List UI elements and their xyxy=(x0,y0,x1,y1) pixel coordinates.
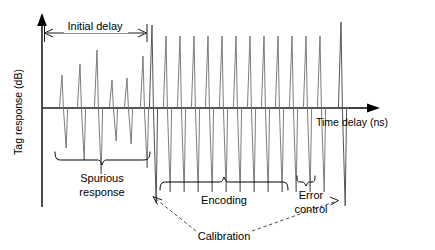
figure-container: Initial delay Tag response (dB) Time del… xyxy=(0,0,435,250)
initial-delay-label: Initial delay xyxy=(67,20,123,32)
pulse-calibration-1 xyxy=(338,22,346,206)
spurious-response-annotation: Spurious response xyxy=(55,152,150,198)
pulse-encoding-3 xyxy=(191,36,199,192)
pulse-encoding-4 xyxy=(205,36,213,192)
calibration-leader-right xyxy=(252,202,334,231)
pulse-encoding-10 xyxy=(289,36,297,192)
pulse-encoding-1 xyxy=(163,36,171,192)
pulse-encoding-6 xyxy=(233,36,241,192)
initial-delay-annotation: Initial delay xyxy=(45,19,148,42)
pulse-encoding-9 xyxy=(275,36,283,192)
pulse-initial-delay-3 xyxy=(94,50,102,174)
pulse-encoding-5 xyxy=(219,36,227,192)
calibration-label: Calibration xyxy=(198,230,251,242)
pulse-initial-delay-1 xyxy=(59,75,67,148)
x-axis-label: Time delay (ns) xyxy=(316,116,388,128)
signal-plot: Initial delay Tag response (dB) Time del… xyxy=(0,0,435,250)
error-control-label-line1: Error xyxy=(299,189,324,201)
error-control-annotation: Error control xyxy=(294,176,327,215)
pulse-calibration-1 xyxy=(149,25,157,203)
pulse-initial-delay-4 xyxy=(109,80,117,141)
calibration-arrowhead-right xyxy=(330,197,339,205)
spurious-response-brace xyxy=(55,152,150,165)
encoding-label: Encoding xyxy=(201,194,247,206)
y-axis-label: Tag response (dB) xyxy=(12,69,24,155)
x-axis-arrowhead xyxy=(367,103,380,112)
pulse-initial-delay-2 xyxy=(77,64,85,160)
y-axis-arrowhead xyxy=(37,13,47,26)
error-control-label-line2: control xyxy=(294,203,327,215)
calibration-leader-left xyxy=(156,199,196,231)
pulse-encoding-7 xyxy=(247,36,255,192)
error-control-brace xyxy=(297,176,315,186)
pulse-initial-delay-6 xyxy=(140,56,148,168)
pulse-encoding-8 xyxy=(261,36,269,192)
pulse-error-control-1 xyxy=(303,36,311,192)
pulse-error-control-2 xyxy=(317,36,325,192)
spurious-response-label-line2: response xyxy=(79,186,124,198)
spurious-response-label-line1: Spurious xyxy=(80,172,124,184)
pulse-initial-delay-5 xyxy=(124,78,132,144)
pulse-encoding-2 xyxy=(177,36,185,192)
